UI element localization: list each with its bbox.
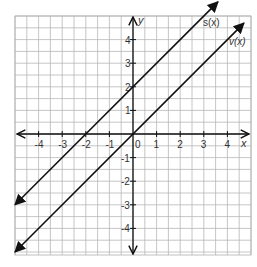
svg-text:-3: -3 xyxy=(121,200,130,211)
svg-text:-4: -4 xyxy=(121,223,130,234)
v-line-label: v(x) xyxy=(229,36,246,47)
svg-text:0: 0 xyxy=(135,139,141,150)
svg-text:4: 4 xyxy=(125,35,131,46)
coordinate-plane: -4-3-2-1012344321-1-2-3-4 x y s(x) v(x) xyxy=(0,0,257,267)
svg-text:1: 1 xyxy=(154,139,160,150)
svg-text:3: 3 xyxy=(201,139,207,150)
x-axis-label: x xyxy=(240,137,247,149)
s-line-label: s(x) xyxy=(203,17,220,28)
svg-text:-2: -2 xyxy=(82,139,91,150)
svg-text:-1: -1 xyxy=(105,139,114,150)
svg-text:1: 1 xyxy=(125,105,131,116)
svg-text:4: 4 xyxy=(224,139,230,150)
svg-text:-2: -2 xyxy=(121,176,130,187)
svg-text:-1: -1 xyxy=(121,153,130,164)
svg-text:2: 2 xyxy=(177,139,183,150)
svg-text:-4: -4 xyxy=(35,139,44,150)
svg-text:3: 3 xyxy=(125,58,131,69)
svg-text:-3: -3 xyxy=(58,139,67,150)
